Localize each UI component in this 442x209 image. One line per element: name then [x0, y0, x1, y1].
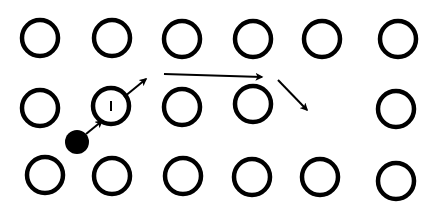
lattice-atom-icon — [164, 89, 200, 125]
arrow-icon — [278, 80, 307, 110]
lattice-atom-icon — [234, 159, 270, 195]
arrow-icon — [164, 74, 262, 77]
interstitial-atom — [65, 130, 89, 154]
lattice-atom-icon — [378, 163, 414, 199]
lattice-atom-icon — [380, 21, 416, 57]
arrow-icon — [86, 121, 102, 134]
interstitial-atom-icon — [65, 130, 89, 154]
lattice-atom-icon — [22, 90, 58, 126]
lattice-atom-icon — [94, 158, 130, 194]
arrow-icon — [124, 79, 146, 97]
lattice-atom-icon — [165, 158, 201, 194]
lattice-atom-icon — [94, 20, 130, 56]
lattice-atom-icon — [302, 159, 338, 195]
lattice-atom-icon — [378, 91, 414, 127]
lattice-diagram — [0, 0, 442, 209]
lattice-atom-icon — [304, 21, 340, 57]
lattice-atom-icon — [235, 86, 271, 122]
lattice-atoms — [22, 20, 416, 199]
lattice-atom-icon — [164, 21, 200, 57]
lattice-atom-icon — [235, 21, 271, 57]
lattice-atom-icon — [27, 157, 63, 193]
migration-arrows — [86, 74, 307, 134]
lattice-atom-icon — [22, 20, 58, 56]
